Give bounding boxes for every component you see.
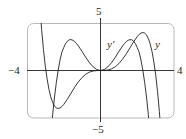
curve-label-y: y <box>155 39 160 50</box>
x-min-tick-label: −4 <box>8 65 20 76</box>
curve-label-y-prime: y′ <box>107 39 114 50</box>
x-max-tick-label: 4 <box>177 65 183 76</box>
y-max-tick-label: 5 <box>96 6 102 17</box>
chart <box>0 0 186 139</box>
y-min-tick-label: −5 <box>92 124 104 135</box>
